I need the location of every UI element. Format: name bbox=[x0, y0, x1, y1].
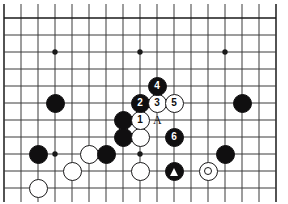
black-stone bbox=[114, 128, 133, 147]
numbered-stone-2: 2 bbox=[131, 94, 150, 113]
white-stone bbox=[29, 179, 48, 198]
black-stone bbox=[29, 145, 48, 164]
point-label-a: A bbox=[153, 114, 162, 126]
numbered-stone-5: 5 bbox=[165, 94, 184, 113]
white-stone bbox=[131, 162, 150, 181]
numbered-stone-1: 1 bbox=[131, 111, 150, 130]
black-stone-triangle-marked bbox=[165, 162, 184, 181]
star-point bbox=[52, 151, 57, 156]
stone-move-number: 4 bbox=[154, 81, 159, 91]
go-board-diagram: 123456 A bbox=[0, 0, 288, 204]
black-stone bbox=[46, 94, 65, 113]
star-point bbox=[137, 151, 142, 156]
stone-move-number: 6 bbox=[171, 132, 176, 142]
star-point bbox=[52, 49, 57, 54]
circle-marker-icon bbox=[204, 167, 212, 175]
numbered-stone-4: 4 bbox=[148, 77, 167, 96]
black-stone bbox=[114, 111, 133, 130]
stone-move-number: 1 bbox=[137, 115, 142, 125]
star-point bbox=[222, 49, 227, 54]
black-stone bbox=[216, 145, 235, 164]
stone-move-number: 5 bbox=[171, 98, 176, 108]
white-stone bbox=[63, 162, 82, 181]
triangle-marker-icon bbox=[170, 168, 178, 176]
numbered-stone-3: 3 bbox=[148, 94, 167, 113]
white-stone bbox=[131, 128, 150, 147]
white-stone bbox=[80, 145, 99, 164]
stone-move-number: 3 bbox=[154, 98, 159, 108]
stone-move-number: 2 bbox=[137, 98, 142, 108]
star-point bbox=[137, 49, 142, 54]
black-stone bbox=[97, 145, 116, 164]
black-stone bbox=[233, 94, 252, 113]
white-stone-circle-marked bbox=[199, 162, 218, 181]
numbered-stone-6: 6 bbox=[165, 128, 184, 147]
